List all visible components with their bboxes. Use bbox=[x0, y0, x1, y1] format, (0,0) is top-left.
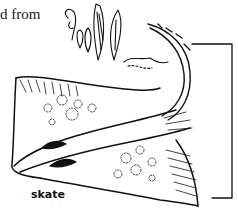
illustration-caption: skate bbox=[31, 188, 65, 201]
skate-illustration bbox=[0, 0, 238, 220]
skate-body bbox=[12, 77, 198, 206]
seaweed bbox=[66, 4, 168, 68]
bracket-line bbox=[192, 44, 232, 198]
tail bbox=[148, 24, 190, 120]
body-spots bbox=[44, 95, 156, 181]
